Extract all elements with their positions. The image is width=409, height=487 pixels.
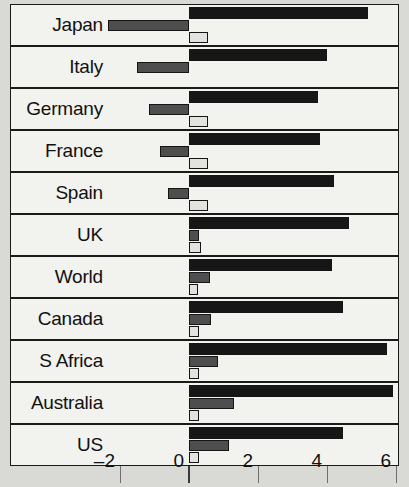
- category-label: Italy: [11, 47, 107, 87]
- chart-row: Italy: [10, 46, 399, 88]
- x-tick-label: 6: [380, 450, 396, 472]
- bar-series-gray: [160, 146, 189, 157]
- bar-series-black: [189, 301, 343, 313]
- bar-series-black: [189, 427, 343, 439]
- bar-series-light: [189, 410, 199, 421]
- category-label: S Africa: [11, 341, 107, 381]
- chart-row: UK: [10, 214, 399, 256]
- x-tick-label: 2: [242, 450, 258, 472]
- bar-series-black: [189, 343, 387, 355]
- bar-series-black: [189, 49, 327, 61]
- category-label: Germany: [11, 89, 107, 129]
- category-label: World: [11, 257, 107, 297]
- bar-series-light: [189, 116, 208, 127]
- chart-row: Canada: [10, 298, 399, 340]
- chart-row: Australia: [10, 382, 399, 424]
- bar-series-gray: [189, 230, 199, 241]
- bar-series-light: [189, 200, 208, 211]
- chart-row: World: [10, 256, 399, 298]
- category-label: France: [11, 131, 107, 171]
- bar-series-light: [189, 242, 201, 253]
- chart-row: France: [10, 130, 399, 172]
- x-tick-label: 4: [311, 450, 327, 472]
- bar-series-black: [189, 259, 332, 271]
- bar-series-black: [189, 7, 368, 19]
- bar-series-light: [189, 368, 199, 379]
- bar-series-light: [189, 32, 208, 43]
- bar-series-gray: [189, 314, 211, 325]
- category-label: US: [11, 425, 107, 465]
- bar-series-light: [189, 284, 198, 295]
- chart-row: S Africa: [10, 340, 399, 382]
- chart-row: Spain: [10, 172, 399, 214]
- bar-series-black: [189, 217, 349, 229]
- bar-series-gray: [149, 104, 189, 115]
- bar-series-gray: [189, 272, 210, 283]
- bar-series-black: [189, 385, 393, 397]
- chart-row: Japan: [10, 4, 399, 46]
- category-label: Spain: [11, 173, 107, 213]
- category-rows: JapanItalyGermanyFranceSpainUKWorldCanad…: [10, 4, 399, 466]
- chart-row: Germany: [10, 88, 399, 130]
- bar-series-gray: [168, 188, 189, 199]
- category-label: Canada: [11, 299, 107, 339]
- x-tick-label: 0: [173, 450, 189, 472]
- bar-series-black: [189, 133, 320, 145]
- category-label: Australia: [11, 383, 107, 423]
- bar-series-gray: [189, 356, 218, 367]
- bar-chart: JapanItalyGermanyFranceSpainUKWorldCanad…: [0, 0, 409, 487]
- bar-series-gray: [108, 20, 189, 31]
- bar-series-black: [189, 91, 318, 103]
- bar-series-gray: [137, 62, 189, 73]
- bar-series-light: [189, 326, 199, 337]
- category-label: UK: [11, 215, 107, 255]
- bar-series-light: [189, 158, 208, 169]
- category-label: Japan: [11, 5, 107, 45]
- bar-series-black: [189, 175, 334, 187]
- bar-series-gray: [189, 398, 234, 409]
- plot-area: JapanItalyGermanyFranceSpainUKWorldCanad…: [10, 4, 399, 483]
